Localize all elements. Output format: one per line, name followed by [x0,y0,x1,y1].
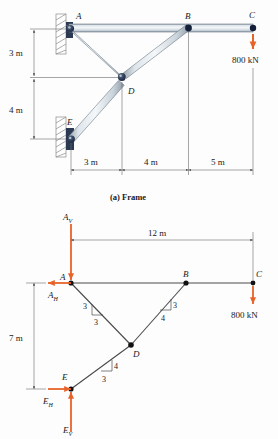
slope-ad-run: 3 [94,318,98,327]
fbd-span-dimension [71,232,253,280]
member-db [123,25,191,79]
fbd-members [71,283,253,389]
load-label-frame: 800 kN [232,55,259,65]
frame-label-b: B [185,11,191,21]
figure-caption-a: (a) Frame [110,192,146,202]
fbd-height-label: 7 m [9,333,23,343]
fbd-label-d: D [132,349,140,359]
fbd-member-de [71,345,131,389]
dim-3m-vertical: 3 m [9,48,23,58]
fbd-nodes [68,280,255,391]
fbd-label-e: E [61,372,68,382]
fbd-member-db [131,283,186,345]
reaction-eh-label: EH [42,396,54,408]
pin-joints-frame [67,25,256,143]
dim-3m-horizontal: 3 m [84,157,98,167]
frame-label-d: D [127,86,135,96]
reaction-av-label: AV [62,212,74,224]
member-de [69,80,125,141]
dim-4m-horizontal: 4 m [144,157,158,167]
dim-5m-horizontal: 5 m [211,157,225,167]
frame-analysis-figure: A B C D E 800 kN 3 m 4 m 3 m [0,0,278,439]
fbd-label-a: A [59,272,66,282]
member-ac [69,24,253,32]
reaction-ah-label: AH [47,290,59,302]
slope-de-rise: 4 [114,362,118,371]
frame-diagram: A B C D E 800 kN 3 m 4 m 3 m [9,10,259,202]
member-ad [67,25,125,80]
dim-4m-vertical: 4 m [9,105,23,115]
fbd-label-b: B [183,269,189,279]
vertical-dimensions-frame [30,29,118,139]
frame-label-a: A [75,11,82,21]
frame-label-e: E [66,117,73,127]
slope-bd-rise: 3 [173,301,177,310]
fbd-member-ad [71,283,131,345]
fbd-span-label: 12 m [148,228,166,238]
fbd-label-c: C [256,269,263,279]
fbd-load-label: 800 kN [231,310,258,320]
support-wall-a [56,14,73,54]
fbd-height-dimension [26,283,46,389]
slope-bd-run: 4 [161,314,165,323]
slope-ad-rise: 3 [83,302,87,311]
slope-triangle-bd [160,299,171,310]
slope-de-run: 3 [102,375,106,384]
frame-label-c: C [249,10,256,20]
free-body-diagram: A B C D E AV AH EH EV 800 kN [9,212,263,437]
